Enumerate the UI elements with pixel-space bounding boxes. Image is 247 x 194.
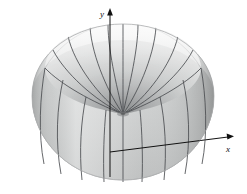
surface-plot-canvas: y x (0, 0, 247, 194)
y-axis-arrowhead (107, 8, 113, 16)
surface-plot-figure: y x (0, 0, 247, 194)
surface-cusp (117, 112, 129, 117)
y-axis-label: y (99, 9, 104, 19)
x-axis-arrowhead (227, 133, 234, 139)
x-axis-label: x (225, 144, 230, 154)
